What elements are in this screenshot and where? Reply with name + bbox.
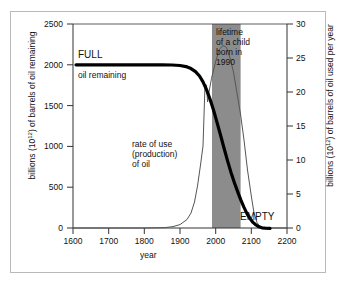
x-tick-2000: 2000 bbox=[196, 236, 236, 246]
y-ticks-left bbox=[67, 24, 73, 228]
y-tick-right-5: 5 bbox=[296, 189, 318, 199]
y-axis-left-title-suffix: ) of barrels of oil remaining bbox=[27, 31, 37, 132]
annotation-full: FULL bbox=[78, 50, 102, 60]
x-tick-1800: 1800 bbox=[124, 236, 164, 246]
x-tick-1700: 1700 bbox=[89, 236, 129, 246]
annotation-empty: EMPTY bbox=[240, 212, 274, 222]
y-axis-left-title: billions (1012) of barrels of oil remain… bbox=[27, 10, 38, 200]
annotation-lifetime-line-2: of a child bbox=[216, 37, 250, 47]
y-axis-right-title-prefix: billions (10 bbox=[325, 146, 335, 187]
y-tick-left-0: 0 bbox=[29, 223, 63, 233]
y-tick-right-30: 30 bbox=[296, 19, 318, 29]
x-ticks bbox=[73, 228, 287, 234]
y-tick-right-15: 15 bbox=[296, 121, 318, 131]
y-axis-right-title-exponent: 12 bbox=[325, 139, 331, 146]
y-tick-right-0: 0 bbox=[296, 223, 318, 233]
annotation-rate-line-3: of oil bbox=[132, 159, 177, 169]
x-tick-1900: 1900 bbox=[160, 236, 200, 246]
annotation-rate-line-2: (production) bbox=[132, 149, 177, 159]
x-tick-2100: 2100 bbox=[231, 236, 271, 246]
y-axis-left-title-prefix: billions (10 bbox=[27, 139, 37, 180]
annotation-rate-of-use: rate of use (production) of oil bbox=[132, 139, 177, 169]
y-axis-right-title: billions (1012) of barrels of oil used p… bbox=[325, 5, 336, 205]
y-axis-right-title-suffix: ) of barrels of oil used per year bbox=[325, 24, 335, 139]
figure-container: 2500 2000 1500 1000 500 0 30 25 20 15 10… bbox=[0, 0, 337, 284]
y-tick-right-20: 20 bbox=[296, 87, 318, 97]
annotation-lifetime-line-3: born in bbox=[216, 47, 250, 57]
x-tick-1600: 1600 bbox=[53, 236, 93, 246]
y-ticks-right bbox=[287, 24, 293, 228]
annotation-oil-remaining: oil remaining bbox=[78, 70, 126, 80]
x-axis-title: year bbox=[140, 250, 157, 260]
y-axis-left-title-exponent: 12 bbox=[27, 132, 33, 139]
x-tick-2200: 2200 bbox=[267, 236, 307, 246]
annotation-lifetime-line-1: lifetime bbox=[216, 27, 250, 37]
y-tick-right-10: 10 bbox=[296, 155, 318, 165]
annotation-lifetime-line-4: 1990 bbox=[216, 57, 250, 67]
annotation-lifetime-of-child: lifetime of a child born in 1990 bbox=[216, 27, 250, 67]
y-tick-right-25: 25 bbox=[296, 53, 318, 63]
annotation-rate-line-1: rate of use bbox=[132, 139, 177, 149]
